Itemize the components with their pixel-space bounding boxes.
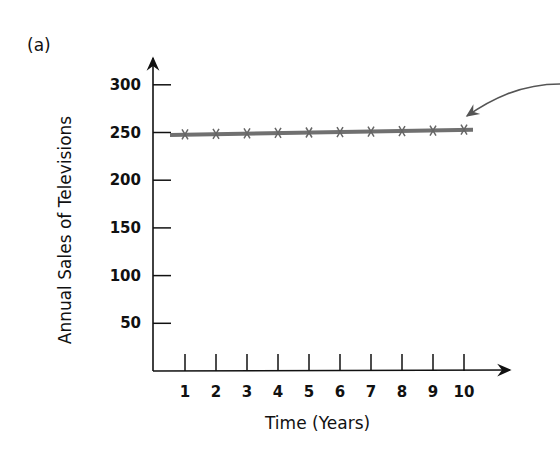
x-tick-label: 5	[304, 383, 314, 401]
y-tick-label: 250	[110, 124, 141, 142]
x-tick-label: 4	[273, 383, 283, 401]
axes	[153, 58, 510, 371]
x-tick-label: 3	[242, 383, 252, 401]
x-tick-label: 10	[454, 383, 475, 401]
data-series	[170, 125, 473, 140]
x-axis-ticks: 12345678910	[180, 354, 475, 401]
line-chart: 50100150200250300 12345678910	[0, 0, 560, 469]
x-axis	[153, 370, 510, 371]
y-axis-ticks: 50100150200250300	[110, 76, 171, 333]
y-tick-label: 300	[110, 76, 141, 94]
x-tick-label: 8	[397, 383, 407, 401]
y-tick-label: 150	[110, 219, 141, 237]
x-tick-label: 2	[211, 383, 221, 401]
annotation-arrow	[467, 84, 560, 116]
x-tick-label: 1	[180, 383, 190, 401]
x-tick-label: 6	[335, 383, 345, 401]
x-tick-label: 7	[366, 383, 376, 401]
y-tick-label: 100	[110, 267, 141, 285]
x-tick-label: 9	[428, 383, 438, 401]
y-tick-label: 50	[120, 314, 141, 332]
y-tick-label: 200	[110, 171, 141, 189]
